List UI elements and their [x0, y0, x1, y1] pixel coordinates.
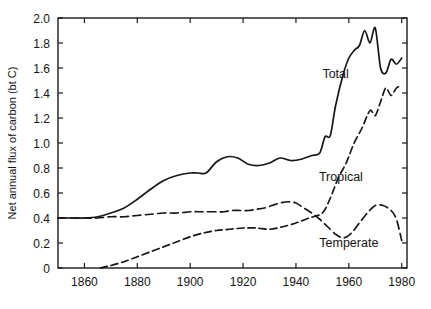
annotation-temperate: Temperate: [319, 236, 378, 250]
y-axis-title: Net annual flux of carbon (bt C): [6, 67, 18, 220]
series-line-temperate: [58, 202, 402, 241]
x-tick-label-1940: 1940: [283, 275, 310, 289]
x-axis-tick-labels: 1860188019001920194019601980: [71, 275, 415, 289]
y-tick-label-0.6: 0.6: [33, 187, 50, 201]
annotation-tropical: Tropical: [319, 170, 363, 184]
y-axis-title-text: Net annual flux of carbon (bt C): [6, 67, 18, 220]
y-axis-tick-labels: 00.20.40.60.81.01.21.41.61.82.0: [33, 12, 50, 276]
chart-canvas: 1860188019001920194019601980 00.20.40.60…: [0, 0, 431, 309]
x-tick-label-1860: 1860: [71, 275, 98, 289]
y-tick-label-1.8: 1.8: [33, 37, 50, 51]
chart-figure: 1860188019001920194019601980 00.20.40.60…: [0, 0, 431, 309]
y-tick-label-0.2: 0.2: [33, 237, 50, 251]
y-tick-label-1.4: 1.4: [33, 87, 50, 101]
x-tick-label-1880: 1880: [124, 275, 151, 289]
y-tick-label-0: 0: [43, 262, 50, 276]
x-tick-label-1960: 1960: [335, 275, 362, 289]
y-tick-label-1.0: 1.0: [33, 137, 50, 151]
y-tick-label-2.0: 2.0: [33, 12, 50, 26]
series-line-total: [58, 27, 402, 218]
y-tick-label-1.6: 1.6: [33, 62, 50, 76]
y-tick-label-1.2: 1.2: [33, 112, 50, 126]
x-tick-label-1920: 1920: [230, 275, 257, 289]
x-tick-label-1980: 1980: [388, 275, 415, 289]
y-tick-label-0.8: 0.8: [33, 162, 50, 176]
annotation-total: Total: [322, 67, 348, 81]
y-tick-label-0.4: 0.4: [33, 212, 50, 226]
data-series-group: [58, 27, 402, 268]
x-tick-label-1900: 1900: [177, 275, 204, 289]
